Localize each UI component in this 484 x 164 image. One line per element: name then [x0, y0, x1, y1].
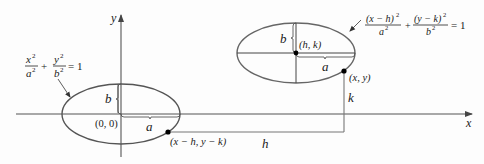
translated-semi-minor-label: b	[280, 31, 287, 46]
origin-semi-major-label: a	[146, 119, 153, 134]
svg-text:a: a	[379, 26, 384, 37]
svg-text:2: 2	[60, 52, 64, 60]
origin-center-label: (0, 0)	[95, 118, 118, 130]
y-axis-label: y	[110, 11, 117, 25]
svg-text:2: 2	[60, 66, 64, 74]
svg-text:y: y	[53, 53, 59, 65]
translated-ellipse-diagram: x y b a (0, 0) x 2 a 2 + y 2 b 2 = 1	[0, 0, 484, 164]
svg-text:2: 2	[443, 11, 446, 18]
horizontal-shift-label: h	[262, 136, 269, 151]
diagram-canvas: x y b a (0, 0) x 2 a 2 + y 2 b 2 = 1	[0, 0, 484, 164]
point-xy-label: (x, y)	[349, 72, 371, 84]
x-axis-label: x	[465, 116, 472, 130]
point-xy	[341, 68, 346, 73]
svg-text:2: 2	[385, 24, 388, 31]
translated-center-label: (h, k)	[299, 39, 322, 51]
svg-text:2: 2	[32, 66, 36, 74]
point-x-minus-h-y-minus-k	[165, 129, 170, 134]
point-translated-label: (x − h, y − k)	[170, 136, 227, 148]
translated-equation-pointer	[350, 20, 361, 31]
svg-text:(y − k): (y − k)	[414, 13, 442, 25]
svg-text:(x − h): (x − h)	[366, 13, 395, 25]
svg-text:2: 2	[432, 24, 435, 31]
svg-text:x: x	[25, 53, 31, 65]
svg-text:2: 2	[32, 52, 36, 60]
svg-text:b: b	[426, 26, 431, 37]
svg-text:+: +	[41, 60, 47, 72]
origin-ellipse-equation: x 2 a 2 + y 2 b 2 = 1	[25, 52, 82, 79]
origin-equation-pointer	[58, 79, 70, 97]
origin-semi-minor-label: b	[105, 91, 112, 106]
svg-text:= 1: = 1	[451, 19, 465, 31]
vertical-shift-label: k	[348, 90, 354, 105]
translated-semi-major-label: a	[322, 59, 329, 74]
svg-text:2: 2	[396, 11, 399, 18]
center-point-hk	[294, 51, 299, 56]
svg-text:+: +	[405, 20, 411, 31]
translated-ellipse-equation: (x − h) 2 a 2 + (y − k) 2 b 2 = 1	[365, 11, 465, 37]
svg-text:= 1: = 1	[68, 60, 82, 72]
translated-b-brace	[291, 23, 296, 53]
